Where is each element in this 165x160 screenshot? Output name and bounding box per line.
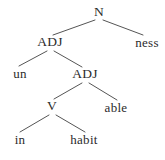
tree-node-in: in	[15, 133, 26, 146]
tree-branch-line	[54, 51, 82, 67]
tree-node-n-root: N	[94, 5, 104, 19]
tree-branch-line	[19, 51, 47, 66]
tree-branch-line	[103, 20, 143, 35]
tree-node-adj-2: ADJ	[72, 67, 98, 81]
tree-branch-line	[89, 83, 117, 100]
tree-node-able: able	[105, 101, 128, 114]
tree-branch-line	[56, 115, 85, 132]
tree-node-v-1: V	[47, 99, 57, 113]
tree-branch-line	[53, 20, 95, 35]
tree-node-adj-1: ADJ	[37, 35, 63, 49]
tree-branch-line	[20, 115, 49, 132]
syntax-tree-figure: NADJnessunADJVableinhabit	[0, 0, 165, 160]
tree-node-habit: habit	[70, 133, 98, 146]
tree-node-un: un	[13, 67, 27, 80]
tree-branch-line	[54, 83, 82, 99]
tree-node-ness: ness	[135, 36, 159, 49]
